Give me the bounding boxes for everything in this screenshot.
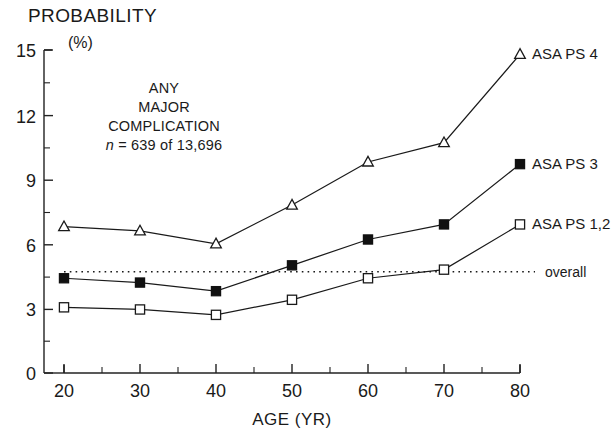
x-tick-label-80: 80 bbox=[510, 381, 530, 401]
annotation-line-1: ANY bbox=[149, 80, 180, 96]
data-point bbox=[287, 295, 296, 304]
y-tick-label-0: 0 bbox=[26, 364, 36, 384]
chart-canvas: PROBABILITY (%) ANY MAJOR COMPLICATION n… bbox=[0, 0, 614, 434]
data-point bbox=[439, 265, 448, 274]
y-tick-label-12: 12 bbox=[16, 107, 36, 127]
data-point bbox=[211, 310, 220, 319]
x-tick-label-30: 30 bbox=[130, 381, 150, 401]
x-tick-label-20: 20 bbox=[54, 381, 74, 401]
data-point bbox=[515, 49, 526, 59]
annotation-sample-size: n = 639 of 13,696 bbox=[106, 137, 223, 153]
x-tick-label-60: 60 bbox=[358, 381, 378, 401]
overall-reference-label: overall bbox=[545, 264, 586, 280]
y-tick-label-3: 3 bbox=[26, 300, 36, 320]
data-series-group bbox=[59, 49, 526, 320]
x-tick-label-40: 40 bbox=[206, 381, 226, 401]
data-point bbox=[363, 274, 372, 283]
series-label-asa-ps-4: ASA PS 4 bbox=[532, 45, 598, 62]
x-axis-ticks bbox=[64, 364, 520, 373]
x-axis-title: AGE (YR) bbox=[252, 410, 332, 429]
y-axis-ticks bbox=[44, 50, 53, 373]
x-tick-label-50: 50 bbox=[282, 381, 302, 401]
data-point bbox=[439, 220, 448, 229]
series-label-asa-ps-1-2: ASA PS 1,2 bbox=[532, 215, 610, 232]
data-point bbox=[287, 199, 298, 209]
data-point bbox=[59, 221, 70, 231]
data-point bbox=[211, 287, 220, 296]
data-point bbox=[59, 303, 68, 312]
y-tick-label-6: 6 bbox=[26, 236, 36, 256]
annotation-n-value: = 639 of 13,696 bbox=[114, 137, 222, 153]
data-point bbox=[135, 278, 144, 287]
data-point bbox=[135, 305, 144, 314]
x-tick-label-70: 70 bbox=[434, 381, 454, 401]
data-point bbox=[59, 274, 68, 283]
complication-probability-chart: PROBABILITY (%) ANY MAJOR COMPLICATION n… bbox=[0, 0, 614, 434]
annotation-line-2: MAJOR bbox=[138, 99, 190, 115]
y-tick-label-9: 9 bbox=[26, 171, 36, 191]
y-axis-title: PROBABILITY bbox=[28, 5, 157, 26]
annotation-line-3: COMPLICATION bbox=[108, 118, 220, 134]
y-tick-label-15: 15 bbox=[16, 41, 36, 61]
data-point bbox=[515, 220, 524, 229]
data-point bbox=[287, 261, 296, 270]
y-axis-unit: (%) bbox=[68, 34, 93, 51]
series-label-asa-ps-3: ASA PS 3 bbox=[532, 155, 598, 172]
data-point bbox=[363, 235, 372, 244]
data-point bbox=[515, 160, 524, 169]
series-line-1 bbox=[64, 164, 520, 291]
annotation-n-symbol: n bbox=[106, 137, 114, 153]
